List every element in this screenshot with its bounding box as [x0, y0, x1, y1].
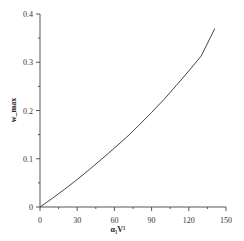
x-tick-label: 120 — [183, 216, 195, 225]
x-axis-label: α₁V¹ — [110, 225, 126, 234]
y-tick-label: 0.2 — [23, 107, 33, 116]
y-tick-label: 0 — [29, 203, 33, 212]
x-tick-label: 60 — [110, 216, 118, 225]
y-tick-label: 0.4 — [23, 10, 33, 19]
x-tick-label: 0 — [38, 216, 42, 225]
y-tick-label: 0.3 — [23, 58, 33, 67]
y-ticks: 00.10.20.30.4 — [23, 10, 40, 212]
y-axis-label: w_max — [9, 98, 18, 122]
data-line — [40, 29, 215, 208]
x-tick-label: 150 — [220, 216, 232, 225]
y-tick-label: 0.1 — [23, 155, 33, 164]
x-tick-label: 30 — [73, 216, 81, 225]
chart: 00.10.20.30.4 0306090120150 α₁V¹ w_max — [0, 0, 244, 241]
x-ticks: 0306090120150 — [38, 207, 232, 225]
x-tick-label: 90 — [148, 216, 156, 225]
